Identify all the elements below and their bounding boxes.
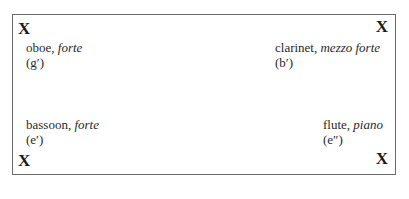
position-mark-top-right: X: [376, 18, 388, 35]
instrument-label-oboe: oboe, forte (g′): [26, 40, 82, 70]
instrument-name: flute,: [323, 117, 350, 132]
pitch-label: (b′): [275, 55, 380, 70]
instrument-label-flute: flute, piano (e″): [323, 117, 383, 147]
position-mark-bottom-right: X: [376, 150, 388, 167]
instrument-name: clarinet,: [275, 40, 317, 55]
stage-box: X X X X oboe, forte (g′) clarinet, mezzo…: [12, 14, 396, 175]
position-mark-bottom-left: X: [18, 152, 30, 169]
pitch-label: (e′): [26, 132, 99, 147]
instrument-name: oboe,: [26, 40, 55, 55]
dynamic-marking: piano: [353, 117, 383, 132]
pitch-label: (e″): [323, 132, 383, 147]
pitch-label: (g′): [26, 55, 82, 70]
instrument-label-bassoon: bassoon, forte (e′): [26, 117, 99, 147]
instrument-name: bassoon,: [26, 117, 71, 132]
dynamic-marking: forte: [58, 40, 83, 55]
dynamic-marking: forte: [74, 117, 99, 132]
dynamic-marking: mezzo forte: [320, 40, 380, 55]
position-mark-top-left: X: [18, 20, 30, 37]
instrument-label-clarinet: clarinet, mezzo forte (b′): [275, 40, 380, 70]
